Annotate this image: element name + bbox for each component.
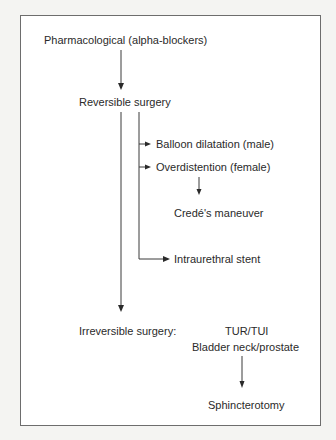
- node-pharmacological: Pharmacological (alpha-blockers): [44, 34, 207, 47]
- node-overdistention: Overdistention (female): [156, 161, 270, 174]
- node-intraurethral-stent: Intraurethral stent: [174, 253, 260, 266]
- node-balloon-dilatation: Balloon dilatation (male): [156, 138, 274, 151]
- diagram-frame: [20, 15, 321, 426]
- node-irreversible-surgery: Irreversible surgery:: [79, 325, 176, 338]
- diagram-stage: Pharmacological (alpha-blockers) Reversi…: [0, 0, 336, 440]
- node-crede-maneuver: Credé's maneuver: [174, 207, 264, 220]
- node-reversible-surgery: Reversible surgery: [79, 96, 171, 109]
- node-bladder-neck-prostate: Bladder neck/prostate: [192, 341, 299, 354]
- node-sphincterotomy: Sphincterotomy: [208, 399, 284, 412]
- node-tur-tui: TUR/TUI: [225, 325, 268, 338]
